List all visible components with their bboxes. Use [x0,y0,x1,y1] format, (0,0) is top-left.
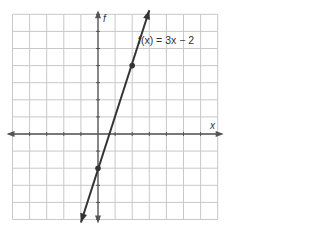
y-axis-label: f [103,13,106,24]
x-axis-label: x [210,120,215,131]
function-label: f(x) = 3x − 2 [138,34,194,46]
